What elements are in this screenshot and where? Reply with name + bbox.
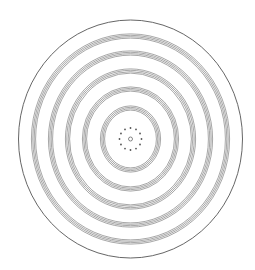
ring-group-2-line <box>51 54 210 225</box>
ring-group-4-line <box>82 87 178 191</box>
ring-group-5-line <box>103 109 158 170</box>
dot <box>124 148 126 150</box>
dot <box>139 133 141 135</box>
ring-group-4-line <box>85 90 176 189</box>
dot <box>130 127 132 129</box>
dot <box>120 144 122 146</box>
ring-group-5-line <box>102 107 159 170</box>
ring-group-1-line <box>33 35 228 242</box>
ring-group-1-line <box>36 38 226 240</box>
dot <box>141 138 143 140</box>
diagram-canvas <box>0 0 255 270</box>
ring-group-5-line <box>105 110 157 168</box>
center-circle <box>129 137 133 141</box>
ring-group-4-line <box>84 88 177 189</box>
dot <box>135 129 137 131</box>
ring-group-3-line <box>70 73 192 205</box>
ring-group-1-line <box>34 37 227 242</box>
ring-group-2-line <box>50 52 211 225</box>
dot <box>119 138 121 140</box>
ring-group-1-line <box>31 34 229 244</box>
ring-group-5-line <box>100 106 160 172</box>
dot <box>124 129 126 131</box>
ring-group-4-line <box>87 91 175 187</box>
concentric-ring-diagram <box>0 0 255 270</box>
dot <box>135 148 137 150</box>
dot <box>130 149 132 151</box>
outer-ellipse <box>19 20 243 258</box>
ring-group-2-line <box>48 51 212 227</box>
ring-group-2-line <box>53 55 209 223</box>
dot <box>120 133 122 135</box>
dot <box>139 144 141 146</box>
